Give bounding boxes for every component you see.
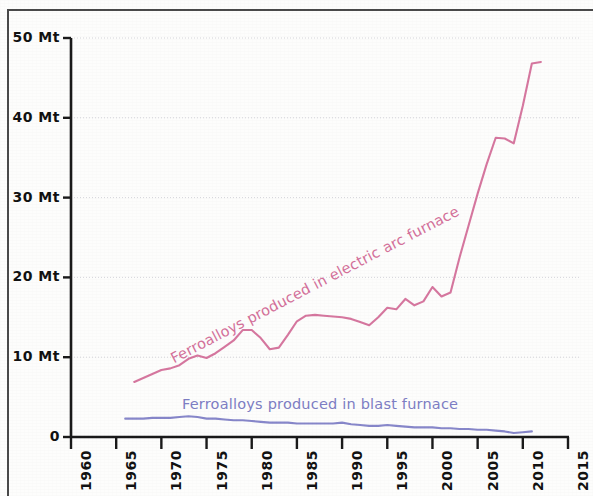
x-axis-tick-label: 1975 bbox=[214, 450, 230, 491]
series-line-blast-furnace bbox=[125, 416, 532, 433]
x-axis-tick-label: 1990 bbox=[349, 450, 365, 491]
series-group bbox=[125, 62, 541, 433]
chart-canvas: 50 Mt40 Mt30 Mt20 Mt10 Mt0 1960196519701… bbox=[0, 0, 593, 496]
axis-group bbox=[63, 38, 569, 449]
y-axis-tick-label: 40 Mt bbox=[13, 109, 60, 125]
series-line-electric-arc-furnace bbox=[134, 62, 541, 382]
chart-page: 50 Mt40 Mt30 Mt20 Mt10 Mt0 1960196519701… bbox=[0, 0, 593, 496]
y-axis-tick-label: 20 Mt bbox=[13, 268, 60, 284]
y-axis-tick-label: 50 Mt bbox=[13, 29, 60, 45]
x-axis-tick-label: 1985 bbox=[304, 450, 320, 491]
x-axis-tick-label: 1980 bbox=[259, 450, 275, 491]
chart-svg bbox=[0, 0, 593, 496]
x-axis-tick-label: 1970 bbox=[168, 450, 184, 491]
x-axis-tick-label: 1965 bbox=[123, 450, 139, 491]
x-axis-tick-label: 2000 bbox=[439, 450, 455, 491]
gridlines-group bbox=[71, 38, 580, 357]
y-axis-tick-label: 10 Mt bbox=[13, 348, 60, 364]
x-axis-tick-label: 2010 bbox=[530, 450, 546, 491]
x-axis-tick-label: 1995 bbox=[394, 450, 410, 491]
y-axis-tick-label: 30 Mt bbox=[13, 189, 60, 205]
y-axis-tick-label: 0 bbox=[50, 428, 60, 444]
series-label-blast-furnace: Ferroalloys produced in blast furnace bbox=[182, 396, 458, 412]
x-axis-tick-label: 2005 bbox=[485, 450, 501, 491]
x-axis-tick-label: 2015 bbox=[575, 450, 591, 491]
x-axis-tick-label: 1960 bbox=[78, 450, 94, 491]
